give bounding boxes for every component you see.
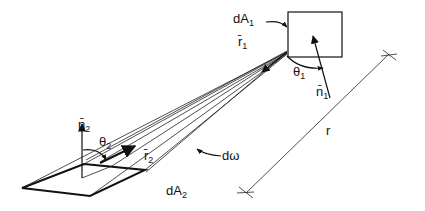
dA1-rectangle <box>288 12 342 57</box>
r-dimension-line <box>237 50 397 198</box>
r-label: r <box>326 123 331 138</box>
r2-label: r̄2 <box>144 148 154 165</box>
n2-label: n̄2 <box>78 117 90 134</box>
domega-leader-arrow <box>197 149 221 156</box>
domega-label: dω <box>222 148 239 163</box>
dA2-parallelogram <box>22 164 145 196</box>
r1-vector <box>262 52 287 72</box>
r1-arrow <box>262 52 287 72</box>
view-factor-diagram: dA1 r̄1 θ1 n̄1 n̄2 θ2 r̄2 dω r dA2 <box>0 0 425 211</box>
r1-label: r̄1 <box>238 34 248 51</box>
dA2-label: dA2 <box>166 183 187 200</box>
dA1-label: dA1 <box>233 11 254 28</box>
dA1-leader-arrow <box>266 22 287 27</box>
solid-angle-cone <box>22 51 287 196</box>
area-dA2 <box>22 164 145 196</box>
theta2-label: θ2 <box>99 134 111 151</box>
dA2-center-lines <box>82 166 112 178</box>
area-dA1 <box>288 12 342 57</box>
